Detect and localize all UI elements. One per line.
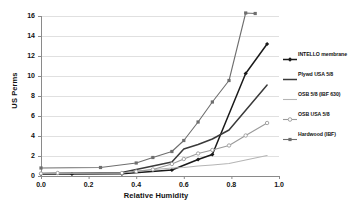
y-tick-label: 8 — [15, 92, 35, 99]
legend-entry[interactable]: OSB USA 5/8 — [283, 104, 352, 124]
y-tick-label: 6 — [15, 112, 35, 119]
legend-swatch-icon — [283, 110, 297, 119]
legend-label: OSB USA 5/8 — [298, 111, 330, 117]
series-marker — [170, 162, 173, 165]
chart-container: US Perms Relative Humidity 0246810121416… — [0, 0, 352, 212]
legend-marker — [288, 137, 291, 140]
y-tick-label: 16 — [15, 12, 35, 19]
x-tick-label: 1.0 — [267, 181, 291, 188]
x-tick-label: 0.8 — [219, 181, 243, 188]
gridlines — [41, 17, 279, 177]
series-marker — [196, 157, 200, 161]
series-line — [41, 85, 267, 174]
series-marker — [227, 144, 230, 147]
legend-entry[interactable]: Plywd USA 5/8 — [283, 64, 352, 84]
legend-label: INTELLO membrane — [298, 51, 347, 57]
x-tick-label: 0.0 — [29, 181, 53, 188]
series-marker — [170, 150, 173, 153]
legend-marker — [288, 117, 292, 121]
y-tick-label: 2 — [15, 152, 35, 159]
x-axis-title: Relative Humidity — [96, 191, 216, 200]
series-3 — [39, 121, 268, 175]
series-marker — [135, 161, 138, 164]
x-tick-label: 0.2 — [77, 181, 101, 188]
legend-label: OSB 5/8 (IBF 630) — [298, 91, 340, 97]
legend-marker — [288, 57, 292, 62]
series-1 — [41, 85, 267, 174]
series-marker — [151, 168, 154, 171]
y-tick-label: 0 — [15, 172, 35, 179]
legend-swatch-icon — [283, 130, 297, 139]
legend-swatch-icon — [283, 90, 297, 99]
series-marker — [254, 12, 257, 15]
series-marker — [244, 134, 247, 137]
legend-entry[interactable]: INTELLO membrane — [283, 44, 352, 64]
axis-lines — [38, 16, 280, 179]
y-tick-label: 14 — [15, 32, 35, 39]
legend-entry[interactable]: OSB 5/8 (IBF 630) — [283, 84, 352, 104]
y-tick-label: 10 — [15, 72, 35, 79]
series-marker — [182, 157, 185, 160]
x-tick-label: 0.4 — [124, 181, 148, 188]
legend-entry[interactable]: Hardwood (IBF) — [283, 124, 352, 144]
series-marker — [151, 156, 154, 159]
series-marker — [56, 171, 59, 174]
series-marker — [196, 152, 199, 155]
series-marker — [196, 120, 199, 123]
legend-label: Plywd USA 5/8 — [298, 71, 333, 77]
series-marker — [265, 121, 268, 124]
x-tick-label: 0.6 — [172, 181, 196, 188]
series-marker — [227, 79, 230, 82]
series-marker — [135, 170, 138, 173]
series-marker — [211, 100, 214, 103]
legend-label: Hardwood (IBF) — [298, 131, 336, 137]
series-marker — [39, 172, 42, 175]
series-marker — [244, 11, 247, 14]
series-marker — [182, 139, 185, 142]
series-4 — [39, 11, 256, 169]
chart-legend: INTELLO membranePlywd USA 5/8OSB 5/8 (IB… — [283, 44, 352, 144]
legend-swatch-icon — [283, 70, 297, 79]
series-marker — [99, 166, 102, 169]
y-tick-label: 12 — [15, 52, 35, 59]
y-tick-label: 4 — [15, 132, 35, 139]
series-marker — [39, 166, 42, 169]
series-marker — [210, 152, 214, 156]
series-marker — [120, 171, 123, 174]
series-marker — [211, 148, 214, 151]
legend-swatch-icon — [283, 50, 297, 59]
